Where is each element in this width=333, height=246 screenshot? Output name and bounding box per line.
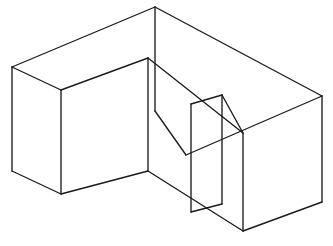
slab-top-right-edge	[222, 95, 243, 133]
edge-group	[12, 7, 322, 231]
bottom-inner-left-edge	[61, 171, 148, 194]
bottom-left-front-edge	[12, 171, 61, 194]
bottom-right-back-edge	[243, 202, 322, 231]
top-front-left-edge	[12, 67, 61, 90]
wireframe-drawing: Ambiguous isometric wireframe figure Lin…	[0, 0, 333, 246]
bottom-mid-edge	[148, 171, 243, 231]
figure-canvas: Ambiguous isometric wireframe figure Lin…	[0, 0, 333, 246]
right-wall-bottom-front	[155, 111, 186, 155]
top-inner-left-edge	[61, 58, 148, 90]
top-back-left-ridge	[12, 7, 155, 67]
slab-bottom-edge	[191, 204, 222, 212]
